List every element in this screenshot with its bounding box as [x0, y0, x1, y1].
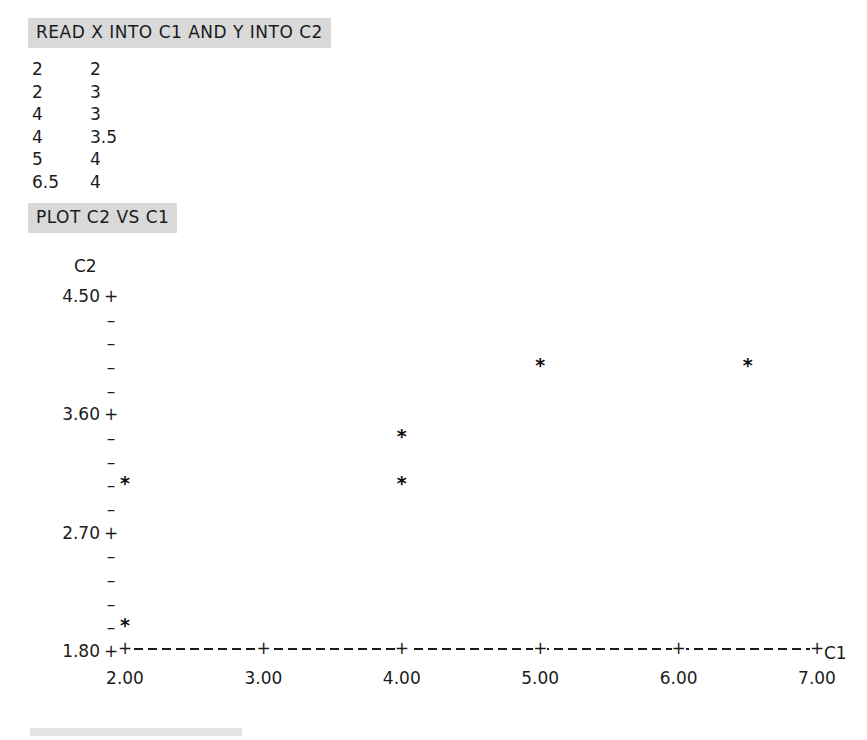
x-axis-title: C1	[824, 643, 847, 663]
y-axis-minor-tick: –	[104, 333, 118, 353]
y-axis-major-tick: +	[104, 523, 118, 543]
x-axis-dash	[428, 648, 437, 650]
x-axis-dash	[652, 648, 661, 650]
x-axis-major-tick: +	[672, 638, 686, 658]
x-axis-dash	[372, 648, 381, 650]
x-axis-major-tick: +	[810, 638, 824, 658]
y-axis-major-tick: +	[104, 404, 118, 424]
x-axis-dash	[638, 648, 647, 650]
y-axis-major-tick: +	[104, 641, 118, 661]
y-axis-major-tick: +	[104, 286, 118, 306]
y-axis-minor-tick: –	[104, 594, 118, 614]
x-axis-dash	[568, 648, 577, 650]
x-axis-dash	[484, 648, 493, 650]
x-axis-dash	[498, 648, 507, 650]
x-axis-dash	[414, 648, 423, 650]
data-point-marker: *	[395, 474, 409, 493]
x-axis-dash	[344, 648, 353, 650]
x-axis-dash	[148, 648, 157, 650]
x-axis-dash	[596, 648, 605, 650]
x-axis-dash	[134, 648, 143, 650]
x-axis-dash	[708, 648, 717, 650]
x-axis-dash	[582, 648, 591, 650]
character-scatter-plot: C2 4.50+––––3.60+––––2.70+––––1.80+ ****…	[0, 0, 867, 740]
x-axis-dash	[288, 648, 297, 650]
x-axis-dash	[162, 648, 171, 650]
x-axis-dash	[792, 648, 801, 650]
x-tick-label: 2.00	[90, 668, 160, 688]
x-tick-label: 6.00	[644, 668, 714, 688]
data-point-marker: *	[118, 474, 132, 493]
x-axis-dash	[456, 648, 465, 650]
y-axis-minor-tick: –	[104, 570, 118, 590]
x-axis-dash	[232, 648, 241, 650]
y-axis-minor-tick: –	[104, 310, 118, 330]
x-axis-dash	[176, 648, 185, 650]
data-point-marker: *	[118, 616, 132, 635]
x-tick-label: 4.00	[367, 668, 437, 688]
x-axis-dash	[246, 648, 255, 650]
x-tick-label: 7.00	[782, 668, 852, 688]
x-axis-dash	[358, 648, 367, 650]
y-axis-minor-tick: –	[104, 428, 118, 448]
x-axis-dash	[512, 648, 521, 650]
x-axis-dash	[204, 648, 213, 650]
x-axis-dash	[316, 648, 325, 650]
x-axis-major-tick: +	[533, 638, 547, 658]
y-axis-minor-tick: –	[104, 452, 118, 472]
x-axis-dash	[274, 648, 283, 650]
y-tick-label: 2.70	[38, 523, 100, 543]
x-axis-dash	[694, 648, 703, 650]
y-axis-minor-tick: –	[104, 475, 118, 495]
y-axis-title: C2	[74, 258, 97, 275]
y-tick-label: 4.50	[38, 286, 100, 306]
x-axis-dash	[218, 648, 227, 650]
bottom-grey-strip	[30, 728, 242, 736]
x-axis-dash	[778, 648, 787, 650]
x-tick-label: 3.00	[228, 668, 298, 688]
x-axis-dash	[750, 648, 759, 650]
x-tick-label: 5.00	[505, 668, 575, 688]
y-axis-minor-tick: –	[104, 381, 118, 401]
x-axis-dash	[442, 648, 451, 650]
y-axis-minor-tick: –	[104, 546, 118, 566]
x-axis-dash	[764, 648, 773, 650]
x-axis-dash	[610, 648, 619, 650]
x-axis-dash	[386, 648, 395, 650]
x-axis-dash	[330, 648, 339, 650]
x-axis-major-tick: +	[395, 638, 409, 658]
x-axis-dash	[302, 648, 311, 650]
x-axis-dash	[470, 648, 479, 650]
y-axis-minor-tick: –	[104, 357, 118, 377]
data-point-marker: *	[741, 356, 755, 375]
data-point-marker: *	[533, 356, 547, 375]
x-axis-dash	[722, 648, 731, 650]
y-axis-minor-tick: –	[104, 499, 118, 519]
x-axis-major-tick: +	[256, 638, 270, 658]
x-axis-dash	[736, 648, 745, 650]
y-axis-minor-tick: –	[104, 617, 118, 637]
x-axis-major-tick: +	[118, 638, 132, 658]
data-point-marker: *	[395, 427, 409, 446]
x-axis-dash	[624, 648, 633, 650]
x-axis-dash	[190, 648, 199, 650]
x-axis-dash	[554, 648, 563, 650]
y-tick-label: 1.80	[38, 641, 100, 661]
y-tick-label: 3.60	[38, 404, 100, 424]
